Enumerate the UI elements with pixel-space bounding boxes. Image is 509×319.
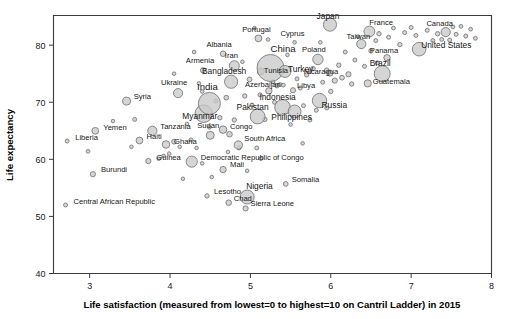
- data-point-unlabeled[interactable]: [245, 169, 249, 173]
- data-point-unlabeled[interactable]: [192, 50, 196, 54]
- data-point-unlabeled[interactable]: [314, 108, 318, 112]
- point-label: South Africa: [244, 134, 286, 143]
- data-point-unlabeled[interactable]: [363, 64, 367, 68]
- point-label: Bangladesh: [202, 66, 247, 76]
- y-tick-label: 40: [35, 269, 45, 279]
- data-point[interactable]: [146, 158, 151, 163]
- data-point-unlabeled[interactable]: [218, 115, 222, 119]
- data-point[interactable]: [205, 194, 209, 198]
- data-point-unlabeled[interactable]: [387, 35, 391, 39]
- data-point[interactable]: [123, 97, 131, 105]
- data-point[interactable]: [162, 141, 170, 149]
- data-point-unlabeled[interactable]: [224, 95, 229, 100]
- data-point-unlabeled[interactable]: [414, 33, 418, 37]
- data-point-unlabeled[interactable]: [464, 34, 468, 38]
- data-point[interactable]: [255, 35, 262, 42]
- data-point-unlabeled[interactable]: [301, 142, 305, 146]
- data-point[interactable]: [219, 126, 227, 134]
- data-point-unlabeled[interactable]: [281, 83, 285, 87]
- x-tick-label: 5: [248, 281, 253, 291]
- data-point[interactable]: [186, 156, 197, 167]
- data-point[interactable]: [64, 203, 68, 207]
- plot-frame: [54, 16, 492, 274]
- data-point-unlabeled[interactable]: [133, 117, 137, 121]
- data-point-unlabeled[interactable]: [130, 145, 134, 149]
- data-point-unlabeled[interactable]: [181, 177, 185, 181]
- data-point-unlabeled[interactable]: [340, 75, 345, 80]
- data-point[interactable]: [220, 166, 226, 172]
- data-point[interactable]: [173, 89, 182, 98]
- x-tick-label: 3: [87, 281, 92, 291]
- point-label: Guatemala: [373, 77, 411, 86]
- point-labels-layer: LiberiaCentral African RepublicBurundiYe…: [74, 11, 472, 209]
- data-point-unlabeled[interactable]: [409, 25, 413, 29]
- point-label: Syria: [134, 92, 152, 101]
- data-point-unlabeled[interactable]: [289, 123, 293, 127]
- data-point[interactable]: [225, 75, 238, 88]
- x-axis-ticks: 345678: [87, 274, 494, 291]
- data-point[interactable]: [364, 80, 371, 87]
- point-label: Mali: [230, 160, 244, 169]
- point-label: France: [369, 18, 393, 27]
- data-point-unlabeled[interactable]: [172, 72, 176, 76]
- data-point[interactable]: [90, 172, 95, 177]
- data-point-unlabeled[interactable]: [374, 39, 378, 43]
- data-point-unlabeled[interactable]: [346, 72, 351, 77]
- x-tick-label: 8: [489, 281, 494, 291]
- data-point[interactable]: [65, 139, 69, 143]
- plot-area: LiberiaCentral African RepublicBurundiYe…: [0, 0, 509, 319]
- point-label: Nicaragua: [304, 67, 339, 76]
- point-label: Pakistan: [237, 102, 269, 112]
- data-point-unlabeled[interactable]: [255, 146, 259, 150]
- point-label: Myanmar: [182, 111, 217, 121]
- data-point-unlabeled[interactable]: [377, 32, 381, 36]
- data-point-unlabeled[interactable]: [469, 27, 473, 31]
- data-point-unlabeled[interactable]: [454, 32, 458, 36]
- point-label: Congo: [230, 122, 252, 131]
- data-point[interactable]: [226, 200, 232, 206]
- data-point-unlabeled[interactable]: [474, 36, 478, 40]
- data-point-unlabeled[interactable]: [241, 60, 245, 64]
- y-tick-label: 80: [35, 41, 45, 51]
- data-point-unlabeled[interactable]: [403, 31, 407, 35]
- data-point-unlabeled[interactable]: [332, 78, 337, 83]
- data-point-unlabeled[interactable]: [435, 32, 439, 36]
- data-point-unlabeled[interactable]: [321, 80, 325, 84]
- data-point-unlabeled[interactable]: [301, 104, 305, 108]
- data-point[interactable]: [283, 181, 288, 186]
- data-point-unlabeled[interactable]: [349, 82, 353, 86]
- data-point-unlabeled[interactable]: [178, 145, 182, 149]
- data-point-unlabeled[interactable]: [200, 162, 204, 166]
- data-point-unlabeled[interactable]: [295, 77, 299, 81]
- x-tick-label: 4: [168, 281, 173, 291]
- data-point-unlabeled[interactable]: [86, 149, 90, 153]
- data-point-unlabeled[interactable]: [329, 89, 333, 93]
- data-point-unlabeled[interactable]: [343, 50, 347, 54]
- data-point[interactable]: [234, 141, 242, 149]
- point-label: Yemen: [103, 123, 126, 132]
- data-point-unlabeled[interactable]: [319, 41, 323, 45]
- y-tick-label: 50: [35, 212, 45, 222]
- x-tick-label: 7: [409, 281, 414, 291]
- data-point-unlabeled[interactable]: [266, 38, 270, 42]
- data-point-unlabeled[interactable]: [227, 131, 233, 137]
- point-label: Guinea: [156, 153, 181, 162]
- data-point[interactable]: [243, 206, 248, 211]
- data-point-unlabeled[interactable]: [195, 146, 199, 150]
- x-axis-title: Life satisfaction (measured from lowest=…: [84, 299, 462, 310]
- data-point-unlabeled[interactable]: [425, 28, 429, 32]
- data-point[interactable]: [136, 137, 143, 144]
- data-point[interactable]: [313, 54, 323, 64]
- data-point[interactable]: [206, 131, 214, 139]
- data-point-unlabeled[interactable]: [459, 24, 463, 28]
- data-point-unlabeled[interactable]: [398, 42, 402, 46]
- point-label: Albania: [206, 40, 232, 49]
- data-point-unlabeled[interactable]: [210, 175, 214, 179]
- y-tick-label: 60: [35, 155, 45, 165]
- data-point-unlabeled[interactable]: [353, 58, 357, 62]
- data-point-unlabeled[interactable]: [243, 94, 247, 98]
- y-axis-ticks: 4050607080: [35, 41, 53, 279]
- data-point[interactable]: [441, 27, 450, 36]
- point-label: Portugal: [242, 25, 271, 34]
- point-label: Cyprus: [281, 29, 305, 38]
